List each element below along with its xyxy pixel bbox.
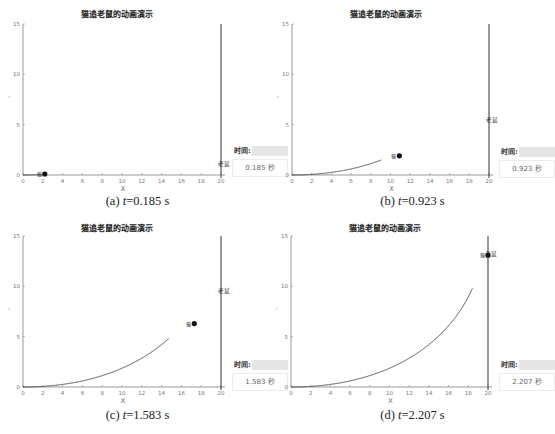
- panel-d: 猫追老鼠的动画演示02468101214161820051015XY猫老鼠时间:…: [275, 217, 550, 434]
- y-tick-label: 5: [286, 122, 290, 128]
- y-tick-label: 10: [13, 283, 20, 289]
- y-tick-label: 0: [17, 384, 21, 390]
- x-tick-label: 18: [466, 178, 473, 184]
- x-tick-label: 2: [310, 178, 314, 184]
- cat-trajectory: [23, 338, 169, 387]
- x-tick-label: 16: [178, 178, 185, 184]
- mouse-label: 老鼠: [485, 250, 497, 258]
- x-tick-label: 2: [309, 390, 313, 396]
- panel-caption: (b) t=0.923 s: [275, 194, 550, 209]
- chart-svg: 猫追老鼠的动画演示02468101214161820051015XY猫老鼠: [0, 0, 275, 217]
- y-tick-label: 15: [282, 21, 289, 27]
- y-tick-label: 5: [17, 122, 21, 128]
- caption-value: =0.185 s: [126, 194, 169, 208]
- y-tick-label: 5: [285, 334, 289, 340]
- x-tick-label: 10: [386, 390, 393, 396]
- panel-caption: (a) t=0.185 s: [0, 194, 275, 209]
- time-display: 时间:0.923 秒: [499, 147, 555, 178]
- chart-title: 猫追老鼠的动画演示: [80, 223, 153, 233]
- x-tick-label: 14: [425, 390, 432, 396]
- time-label: 时间:: [499, 360, 555, 370]
- x-axis-label: X: [121, 185, 126, 193]
- x-tick-label: 20: [218, 178, 225, 184]
- time-display: 时间:2.207 秒: [499, 360, 555, 391]
- x-tick-label: 14: [426, 178, 433, 184]
- time-value-field: 2.207 秒: [499, 373, 555, 391]
- x-tick-label: 20: [485, 390, 492, 396]
- x-axis-label: X: [388, 397, 393, 405]
- y-tick-label: 10: [282, 71, 289, 77]
- x-tick-label: 20: [486, 178, 493, 184]
- y-tick-label: 10: [13, 71, 20, 77]
- chart-svg: 猫追老鼠的动画演示02468101214161820051015XY猫老鼠: [0, 217, 275, 434]
- chart-title: 猫追老鼠的动画演示: [349, 9, 422, 19]
- x-tick-label: 14: [158, 178, 165, 184]
- y-axis-label: Y: [276, 307, 278, 311]
- x-tick-label: 12: [138, 178, 145, 184]
- cat-marker: [397, 153, 402, 158]
- y-tick-label: 15: [13, 21, 20, 27]
- x-tick-label: 14: [158, 390, 165, 396]
- y-axis-label: Y: [8, 95, 10, 99]
- x-tick-label: 8: [369, 178, 373, 184]
- x-tick-label: 8: [100, 178, 104, 184]
- x-tick-label: 10: [387, 178, 394, 184]
- y-tick-label: 5: [17, 334, 21, 340]
- cat-label: 猫: [391, 153, 396, 160]
- y-tick-label: 0: [286, 172, 290, 178]
- caption-prefix: (b): [380, 194, 398, 208]
- caption-prefix: (d): [380, 408, 398, 422]
- x-tick-label: 18: [198, 178, 205, 184]
- panel-caption: (c) t=1.583 s: [0, 408, 275, 423]
- x-tick-label: 16: [445, 390, 452, 396]
- x-tick-label: 0: [21, 178, 25, 184]
- mouse-label: 老鼠: [218, 160, 230, 168]
- panel-caption: (d) t=2.207 s: [275, 408, 550, 423]
- cat-marker: [42, 171, 47, 176]
- y-tick-label: 10: [281, 283, 288, 289]
- chart-title: 猫追老鼠的动画演示: [348, 223, 421, 233]
- x-tick-label: 4: [329, 390, 333, 396]
- caption-prefix: (a): [106, 194, 123, 208]
- x-tick-label: 0: [21, 390, 25, 396]
- time-label: 时间:: [499, 147, 555, 157]
- x-tick-label: 6: [348, 390, 352, 396]
- cat-label: 猫: [186, 321, 191, 328]
- x-tick-label: 20: [218, 390, 225, 396]
- chart-svg: 猫追老鼠的动画演示02468101214161820051015XY猫老鼠: [275, 217, 550, 434]
- cat-trajectory: [292, 160, 381, 175]
- cat-trajectory: [291, 288, 472, 387]
- x-tick-label: 18: [198, 390, 205, 396]
- x-tick-label: 12: [138, 390, 145, 396]
- x-tick-label: 2: [41, 178, 45, 184]
- y-tick-label: 0: [285, 384, 289, 390]
- caption-value: =2.207 s: [402, 408, 445, 422]
- x-tick-label: 4: [61, 390, 65, 396]
- x-tick-label: 10: [119, 390, 126, 396]
- x-tick-label: 6: [81, 178, 85, 184]
- time-value-field: 0.923 秒: [499, 160, 555, 178]
- panel-c: 猫追老鼠的动画演示02468101214161820051015XY猫老鼠时间:…: [0, 217, 275, 434]
- y-axis-label: Y: [277, 95, 279, 99]
- x-tick-label: 4: [330, 178, 334, 184]
- x-tick-label: 16: [446, 178, 453, 184]
- x-tick-label: 18: [465, 390, 472, 396]
- x-tick-label: 8: [100, 390, 104, 396]
- x-tick-label: 6: [81, 390, 85, 396]
- y-tick-label: 0: [17, 172, 21, 178]
- x-tick-label: 12: [407, 178, 414, 184]
- x-axis-label: X: [389, 185, 394, 193]
- caption-value: =1.583 s: [126, 408, 169, 422]
- cat-marker: [192, 321, 197, 326]
- x-tick-label: 16: [178, 390, 185, 396]
- x-tick-label: 8: [368, 390, 372, 396]
- mouse-label: 老鼠: [218, 287, 230, 295]
- chart-svg: 猫追老鼠的动画演示02468101214161820051015XY猫老鼠: [275, 0, 550, 217]
- x-tick-label: 0: [289, 390, 293, 396]
- cat-label: 猫: [37, 171, 42, 178]
- x-tick-label: 12: [406, 390, 413, 396]
- x-tick-label: 10: [119, 178, 126, 184]
- x-axis-label: X: [121, 397, 126, 405]
- x-tick-label: 4: [61, 178, 65, 184]
- x-tick-label: 2: [41, 390, 45, 396]
